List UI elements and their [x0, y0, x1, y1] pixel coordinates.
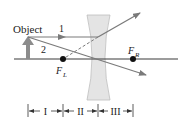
ray-1 [28, 13, 140, 40]
ray-1-label: 1 [59, 23, 64, 34]
focal-right-label: F [127, 45, 135, 56]
ray-2-label: 2 [41, 44, 46, 55]
focal-left-subscript: L [62, 71, 67, 79]
ray-diagram: Object 1 2 F L F R I II III [0, 0, 188, 126]
region-I-label: I [44, 106, 47, 117]
ray-2 [28, 37, 146, 75]
region-III-label: III [111, 106, 121, 117]
region-II-label: II [77, 106, 84, 117]
focal-left-label: F [55, 65, 63, 76]
object-arrow [22, 36, 34, 59]
object-label: Object [13, 23, 42, 35]
focal-point-left [60, 56, 66, 62]
focal-right-subscript: R [134, 51, 140, 59]
ray-1-arrow-icon [58, 34, 66, 40]
